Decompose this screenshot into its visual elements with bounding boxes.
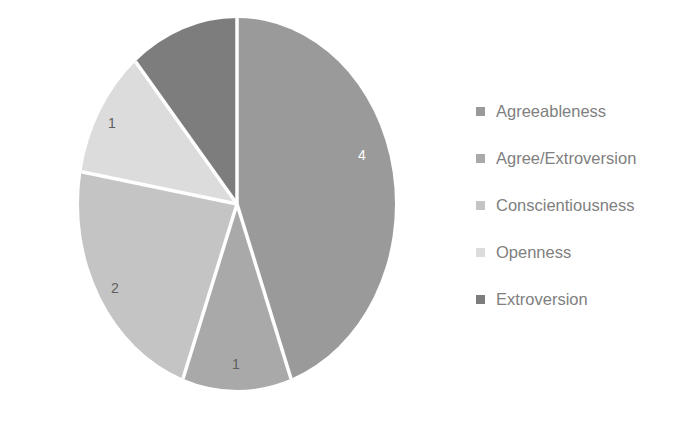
legend-item-conscientiousness[interactable]: Conscientiousness xyxy=(476,182,691,229)
pie-svg xyxy=(0,0,440,437)
legend-item-agreeableness[interactable]: Agreeableness xyxy=(476,88,691,135)
legend: AgreeablenessAgree/ExtroversionConscient… xyxy=(476,88,691,323)
legend-item-label: Conscientiousness xyxy=(496,197,635,214)
legend-item-label: Extroversion xyxy=(496,291,588,308)
legend-item-openness[interactable]: Openness xyxy=(476,229,691,276)
legend-item-label: Agreeableness xyxy=(496,103,606,120)
legend-item-agree-extroversion[interactable]: Agree/Extroversion xyxy=(476,135,691,182)
pie-chart: 4121 AgreeablenessAgree/ExtroversionCons… xyxy=(0,0,693,437)
legend-swatch-icon xyxy=(476,201,485,210)
legend-item-label: Openness xyxy=(496,244,571,261)
legend-item-label: Agree/Extroversion xyxy=(496,150,636,167)
legend-swatch-icon xyxy=(476,248,485,257)
legend-swatch-icon xyxy=(476,107,485,116)
pie-plot-area: 4121 xyxy=(0,0,440,437)
legend-swatch-icon xyxy=(476,154,485,163)
legend-item-extroversion[interactable]: Extroversion xyxy=(476,276,691,323)
legend-swatch-icon xyxy=(476,295,485,304)
